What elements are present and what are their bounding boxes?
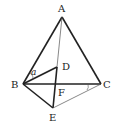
label-D: D — [62, 61, 70, 72]
segment-BE — [23, 84, 53, 108]
label-A: A — [57, 3, 66, 14]
geometry-figure: A B C D E F a — [0, 0, 116, 126]
label-F: F — [58, 87, 65, 98]
angle-arc-C — [87, 84, 88, 90]
label-E: E — [49, 112, 56, 123]
segment-DE — [53, 67, 57, 108]
segment-AC — [62, 17, 101, 84]
label-C: C — [103, 79, 111, 90]
figure-canvas: A B C D E F a — [0, 0, 116, 126]
angle-label-a: a — [31, 67, 36, 77]
label-B: B — [11, 79, 18, 90]
